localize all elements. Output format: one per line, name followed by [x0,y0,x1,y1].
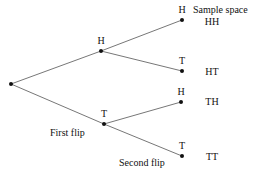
label-first-H: H [97,35,104,46]
outcome-TH: TH [205,96,218,107]
label-second-T-of-H: T [179,55,185,66]
label-second-H-of-T: H [177,86,184,97]
edge-root-H [11,51,101,84]
label-second-T-of-T: T [179,140,185,151]
edge-H-HH [101,20,182,51]
node-HH [180,18,184,22]
edge-H-HT [101,51,182,71]
probability-tree-diagram: H T H T H T Sample space HH HT TH TT Fir… [0,0,257,170]
outcome-TT: TT [206,151,218,162]
root-node [9,82,13,86]
label-second-H-of-H: H [178,4,185,15]
edge-T-TH [104,102,181,124]
edge-T-TT [104,124,182,156]
node-first-H [99,49,103,53]
stage-label-second-flip: Second flip [119,157,165,168]
node-HT [180,69,184,73]
node-TT [180,154,184,158]
node-first-T [102,122,106,126]
label-first-T: T [101,108,107,119]
sample-space-header: Sample space [193,4,248,15]
outcome-HT: HT [205,66,218,77]
node-TH [179,100,183,104]
stage-label-first-flip: First flip [50,127,85,138]
edge-root-T [11,84,104,124]
outcome-HH: HH [205,16,219,27]
